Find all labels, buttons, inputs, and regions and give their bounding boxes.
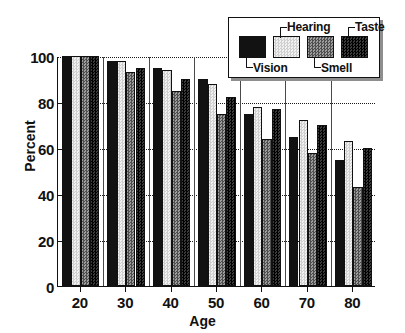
- group-separator-60: [240, 57, 241, 286]
- x-tick-label-60: 60: [238, 294, 284, 311]
- x-tick-label-80: 80: [329, 294, 375, 311]
- bar-taste-age-40: [181, 79, 190, 286]
- bar-smell-age-80: [353, 187, 362, 286]
- legend-leader-smell: [314, 57, 321, 68]
- group-separator-40: [149, 57, 150, 286]
- legend-label-smell: Smell: [321, 61, 352, 75]
- bar-vision-age-50: [198, 79, 207, 286]
- bar-hearing-age-50: [208, 84, 217, 286]
- legend-leader-vision: [246, 57, 253, 68]
- bar-vision-age-70: [289, 137, 298, 287]
- group-separator-50: [194, 57, 195, 286]
- legend-swatch-vision: [239, 36, 266, 58]
- bar-hearing-age-40: [162, 70, 171, 286]
- bar-taste-age-70: [317, 125, 326, 286]
- bar-smell-age-70: [308, 153, 317, 286]
- bar-vision-age-80: [335, 160, 344, 287]
- chart-figure: Percent 020406080100 20304050607080 Age …: [0, 0, 405, 333]
- bar-hearing-age-60: [253, 107, 262, 286]
- bar-hearing-age-80: [344, 141, 353, 286]
- x-axis-title: Age: [0, 313, 405, 329]
- chart-legend: VisionHearingSmellTaste: [228, 17, 380, 78]
- legend-label-taste: Taste: [355, 20, 384, 34]
- legend-swatch-taste: [341, 36, 368, 58]
- legend-swatch-hearing: [273, 36, 300, 58]
- x-tick-mark-50: [216, 287, 217, 292]
- x-tick-mark-30: [125, 287, 126, 292]
- legend-label-hearing: Hearing: [287, 20, 330, 34]
- y-tick-label-20: 20: [14, 234, 54, 249]
- y-tick-label-40: 40: [14, 188, 54, 203]
- x-tick-label-30: 30: [102, 294, 148, 311]
- bar-taste-age-50: [226, 97, 235, 286]
- y-tick-label-100: 100: [14, 50, 54, 65]
- group-separator-30: [103, 57, 104, 286]
- bar-taste-age-30: [136, 68, 145, 287]
- y-tick-label-80: 80: [14, 96, 54, 111]
- x-tick-mark-60: [261, 287, 262, 292]
- bar-vision-age-20: [62, 56, 71, 286]
- x-tick-mark-80: [352, 287, 353, 292]
- bar-vision-age-60: [244, 114, 253, 287]
- bar-smell-age-50: [217, 114, 226, 287]
- group-separator-70: [285, 57, 286, 286]
- legend-label-vision: Vision: [253, 61, 288, 75]
- bar-taste-age-20: [90, 56, 99, 286]
- bar-hearing-age-20: [71, 56, 80, 286]
- legend-leader-hearing: [280, 27, 287, 38]
- group-separator-80: [331, 57, 332, 286]
- bar-smell-age-20: [81, 56, 90, 286]
- plot-area: [57, 57, 375, 287]
- legend-leader-taste: [348, 27, 355, 38]
- x-tick-label-20: 20: [57, 294, 103, 311]
- x-tick-mark-40: [171, 287, 172, 292]
- x-tick-mark-70: [307, 287, 308, 292]
- bar-vision-age-30: [107, 61, 116, 286]
- bar-vision-age-40: [153, 68, 162, 287]
- bar-taste-age-80: [363, 148, 372, 286]
- bar-smell-age-60: [262, 139, 271, 286]
- bar-taste-age-60: [272, 109, 281, 286]
- bar-hearing-age-70: [299, 120, 308, 286]
- x-tick-label-40: 40: [148, 294, 194, 311]
- legend-swatch-smell: [307, 36, 334, 58]
- y-tick-label-60: 60: [14, 142, 54, 157]
- x-tick-mark-20: [80, 287, 81, 292]
- x-tick-label-50: 50: [193, 294, 239, 311]
- bar-hearing-age-30: [117, 61, 126, 286]
- bar-smell-age-40: [172, 91, 181, 287]
- bar-smell-age-30: [126, 72, 135, 286]
- x-tick-label-70: 70: [284, 294, 330, 311]
- y-tick-label-0: 0: [14, 280, 54, 295]
